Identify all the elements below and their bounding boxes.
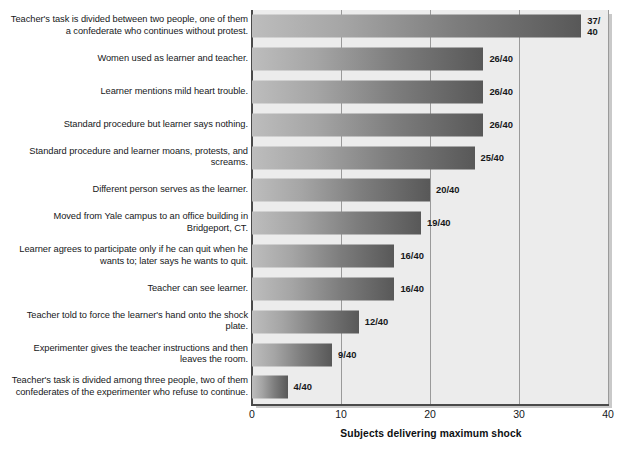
bar bbox=[252, 376, 288, 399]
bar-row: Moved from Yale campus to an office buil… bbox=[0, 207, 632, 240]
bar-row: Teacher's task is divided between two pe… bbox=[0, 10, 632, 43]
bar-value-label: 25/40 bbox=[481, 152, 504, 163]
bar-row: Learner agrees to participate only if he… bbox=[0, 240, 632, 273]
bar-row: Teacher can see learner.16/40 bbox=[0, 273, 632, 306]
bar-value-label: 26/40 bbox=[489, 87, 512, 98]
bar-category-label: Moved from Yale campus to an office buil… bbox=[8, 212, 248, 235]
bar-category-label: Standard procedure but learner says noth… bbox=[8, 119, 248, 131]
bar-category-label: Teacher can see learner. bbox=[8, 283, 248, 295]
bar-row: Women used as learner and teacher.26/40 bbox=[0, 43, 632, 76]
bar bbox=[252, 179, 430, 202]
bar-row: Standard procedure but learner says noth… bbox=[0, 109, 632, 142]
bar bbox=[252, 343, 332, 366]
bar-value-label: 26/40 bbox=[489, 120, 512, 131]
bar-row: Teacher's task is divided among three pe… bbox=[0, 371, 632, 404]
bar-category-label: Standard procedure and learner moans, pr… bbox=[8, 146, 248, 169]
bar-value-label: 26/40 bbox=[489, 54, 512, 65]
x-axis-line bbox=[251, 404, 609, 406]
bar-row: Teacher told to force the learner's hand… bbox=[0, 306, 632, 339]
bar-category-label: Experimenter gives the teacher instructi… bbox=[8, 343, 248, 366]
bar-value-label: 19/40 bbox=[427, 218, 450, 229]
bar-category-label: Learner agrees to participate only if he… bbox=[8, 245, 248, 268]
bar bbox=[252, 245, 394, 268]
bar-value-label: 16/40 bbox=[400, 251, 423, 262]
bar-category-label: Teacher's task is divided among three pe… bbox=[8, 376, 248, 399]
bar-category-label: Women used as learner and teacher. bbox=[8, 53, 248, 65]
bar-row: Learner mentions mild heart trouble.26/4… bbox=[0, 76, 632, 109]
bar-value-label: 12/40 bbox=[365, 317, 388, 328]
bar bbox=[252, 212, 421, 235]
x-tick-label: 30 bbox=[513, 408, 525, 420]
bar bbox=[252, 113, 483, 136]
bar bbox=[252, 48, 483, 71]
bar-category-label: Teacher told to force the learner's hand… bbox=[8, 310, 248, 333]
bar-category-label: Teacher's task is divided between two pe… bbox=[8, 15, 248, 38]
x-tick-label: 10 bbox=[335, 408, 347, 420]
bar bbox=[252, 277, 394, 300]
bar bbox=[252, 80, 483, 103]
bar-value-label: 16/40 bbox=[400, 284, 423, 295]
bar-category-label: Different person serves as the learner. bbox=[8, 185, 248, 197]
x-tick-label: 20 bbox=[424, 408, 436, 420]
bar-value-label: 4/40 bbox=[294, 382, 312, 393]
bar-row: Experimenter gives the teacher instructi… bbox=[0, 338, 632, 371]
bar-row: Standard procedure and learner moans, pr… bbox=[0, 141, 632, 174]
bar-value-label: 37/ 40 bbox=[587, 16, 600, 37]
bar bbox=[252, 310, 359, 333]
x-tick-label: 40 bbox=[602, 408, 614, 420]
x-tick-label: 0 bbox=[249, 408, 255, 420]
bar-row: Different person serves as the learner.2… bbox=[0, 174, 632, 207]
bar bbox=[252, 146, 475, 169]
bar-category-label: Learner mentions mild heart trouble. bbox=[8, 86, 248, 98]
bar-value-label: 20/40 bbox=[436, 185, 459, 196]
bar bbox=[252, 15, 581, 38]
bar-chart: Teacher's task is divided between two pe… bbox=[0, 0, 632, 456]
x-axis-title: Subjects delivering maximum shock bbox=[252, 428, 610, 439]
bar-value-label: 9/40 bbox=[338, 349, 356, 360]
